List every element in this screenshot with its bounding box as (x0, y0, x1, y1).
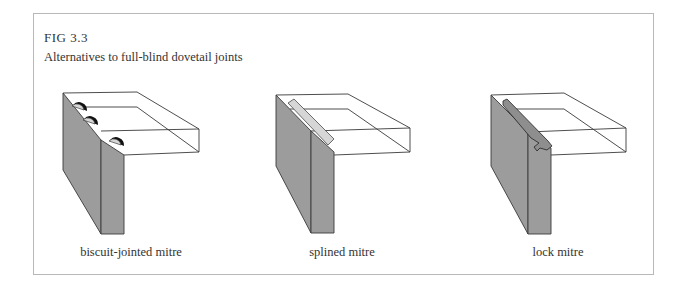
splined-mitre-drawing (276, 94, 410, 233)
biscuit-jointed-mitre-drawing (63, 92, 199, 234)
joint-illustrations (0, 0, 685, 287)
caption-biscuit-jointed-mitre: biscuit-jointed mitre (51, 245, 211, 260)
lock-mitre-drawing (491, 93, 626, 234)
caption-splined-mitre: splined mitre (262, 245, 422, 260)
caption-lock-mitre: lock mitre (478, 245, 638, 260)
